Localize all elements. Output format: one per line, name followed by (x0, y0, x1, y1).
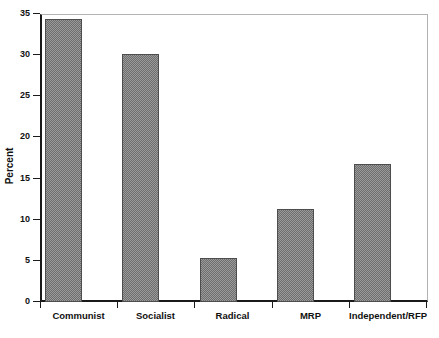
y-axis-tick (33, 13, 40, 14)
x-axis-tick (349, 302, 350, 308)
plot-area (42, 14, 428, 302)
bar-chart: Percent 05101520253035 CommunistSocialis… (0, 0, 439, 338)
y-axis-tick (33, 178, 40, 179)
y-axis-tick-label: 30 (6, 50, 30, 59)
bar (354, 164, 391, 302)
bar (277, 209, 314, 302)
y-axis-tick (33, 54, 40, 55)
x-axis-tick-label: Radical (194, 311, 271, 321)
x-axis-tick (426, 302, 427, 308)
y-axis-tick (33, 136, 40, 137)
x-axis-tick (194, 302, 195, 308)
y-axis-tick-label: 35 (6, 9, 30, 18)
x-axis-tick (117, 302, 118, 308)
y-axis-tick-label: 5 (6, 256, 30, 265)
x-axis-tick-label: Communist (40, 311, 117, 321)
y-axis-tick (33, 260, 40, 261)
y-axis-title: Percent (0, 159, 44, 173)
y-axis-tick-label: 25 (6, 91, 30, 100)
x-axis-tick-label: Socialist (117, 311, 194, 321)
y-axis-tick-label: 10 (6, 215, 30, 224)
x-axis-tick-label: MRP (272, 311, 349, 321)
y-axis-tick-label: 20 (6, 132, 30, 141)
y-axis-tick-label: 15 (6, 174, 30, 183)
x-axis-tick (40, 302, 41, 308)
bar (45, 19, 82, 302)
x-axis-tick (272, 302, 273, 308)
y-axis-tick-label: 0 (6, 297, 30, 306)
y-axis-tick (33, 95, 40, 96)
x-axis-tick-label: Independent/RFP (349, 311, 426, 321)
bar (200, 258, 237, 302)
y-axis-tick (33, 301, 40, 302)
y-axis-tick (33, 219, 40, 220)
bar (122, 54, 159, 302)
